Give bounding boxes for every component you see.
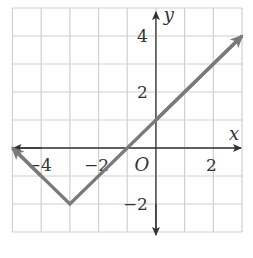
x-tick-label: −2 [84,155,109,175]
coordinate-plane: −4−2242−2Oxy [0,0,253,258]
y-tick-label: 2 [137,82,148,102]
y-axis-label: y [163,4,175,25]
origin-label: O [135,154,150,175]
line-end-arrow [156,36,242,120]
y-tick-label: −2 [123,194,148,214]
x-axis-label: x [229,123,239,144]
y-tick-label: 4 [137,26,148,46]
x-tick-label: 2 [206,155,217,175]
